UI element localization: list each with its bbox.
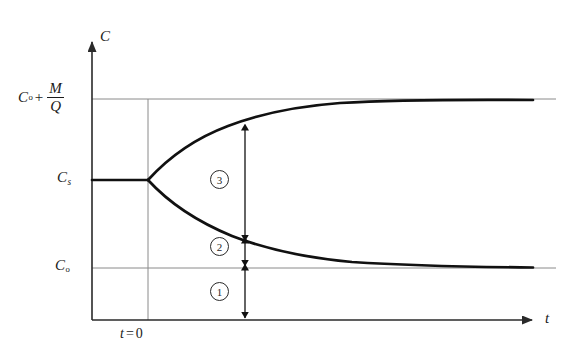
plot-canvas xyxy=(0,0,568,357)
y-tick-cs-base: C xyxy=(57,169,67,185)
y-tick-c0-base: C xyxy=(55,257,65,273)
t-zero-value: 0 xyxy=(136,326,143,341)
fraction-numerator: M xyxy=(47,81,64,97)
region-label-3: 3 xyxy=(210,170,229,189)
y-axis-label: C xyxy=(100,29,110,44)
curve-upper-branch xyxy=(148,100,533,180)
y-tick-label-c0: Co xyxy=(55,258,70,274)
y-tick-upper-base: C xyxy=(18,90,28,105)
axes xyxy=(92,42,532,320)
x-axis-label: t xyxy=(545,311,549,326)
curve-lower-branch xyxy=(148,180,533,268)
gridlines xyxy=(92,99,556,320)
y-tick-cs-subscript: s xyxy=(68,177,72,187)
y-tick-c0-subscript: o xyxy=(66,264,70,274)
region-label-2: 2 xyxy=(210,237,229,256)
fraction-denominator: Q xyxy=(48,98,63,114)
figure-container: C t Co+ M Q Cs Co t=0 3 2 1 xyxy=(0,0,568,357)
y-tick-label-cs: Cs xyxy=(57,170,71,187)
fraction-m-over-q: M Q xyxy=(47,81,64,114)
region-label-1: 1 xyxy=(210,282,229,301)
y-tick-label-upper: Co+ M Q xyxy=(18,81,64,114)
data-curves xyxy=(92,100,533,268)
y-tick-upper-operator: + xyxy=(35,90,43,105)
t-zero-equals: = xyxy=(126,326,134,341)
y-tick-upper-subscript: o xyxy=(29,93,33,102)
x-tick-label-t-zero: t=0 xyxy=(120,327,143,341)
t-zero-symbol: t xyxy=(120,326,124,341)
